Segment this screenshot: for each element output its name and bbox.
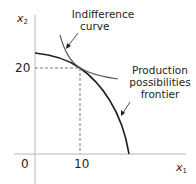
ppf-label-line3: frontier <box>125 88 195 100</box>
y-axis-sub: 2 <box>24 18 28 26</box>
ppf-arrow <box>123 102 130 113</box>
ppf-label-line2: possibilities <box>125 76 195 88</box>
ic-arrowhead <box>66 43 71 49</box>
y-axis-label: x2 <box>17 13 28 28</box>
ppf-label: Production possibilities frontier <box>125 64 195 100</box>
indifference-curve <box>60 35 118 79</box>
origin-label: 0 <box>21 158 29 170</box>
ic-label-line1: Indifference <box>68 8 138 20</box>
ppf-label-line1: Production <box>125 64 195 76</box>
x-tick-10: 10 <box>74 158 89 170</box>
indifference-curve-label: Indifference curve <box>68 8 138 32</box>
ic-arrow <box>68 33 78 46</box>
y-tick-20: 20 <box>15 62 30 74</box>
ic-label-line2: curve <box>68 20 138 32</box>
x-axis-sub: 1 <box>183 167 187 175</box>
ppf-curve <box>35 53 129 154</box>
x-axis-label: x1 <box>176 162 187 177</box>
